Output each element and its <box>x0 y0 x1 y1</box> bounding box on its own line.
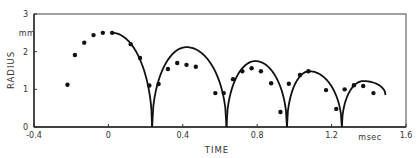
data-point <box>82 40 86 44</box>
x-axis-label: TIME <box>204 145 229 155</box>
data-point <box>278 110 282 114</box>
x-tick-label: 0.8 <box>251 131 264 140</box>
data-point <box>213 91 217 95</box>
radius-vs-time-chart: 0123 -0.400.40.81.21.6 RADIUS mm TIME ms… <box>0 0 420 158</box>
data-point <box>110 31 114 35</box>
data-point <box>138 56 142 60</box>
x-tick-label: -0.4 <box>26 131 42 140</box>
x-tick-label: 0.4 <box>176 131 189 140</box>
data-point <box>166 67 170 71</box>
data-point <box>222 91 226 95</box>
data-point <box>324 88 328 92</box>
data-point <box>194 65 198 69</box>
measured-points <box>65 31 375 115</box>
x-tick-label: 0 <box>106 131 111 140</box>
data-point <box>184 63 188 67</box>
data-point <box>259 69 263 73</box>
data-point <box>240 69 244 73</box>
data-point <box>156 82 160 86</box>
data-point <box>287 81 291 85</box>
data-point <box>147 83 151 87</box>
data-point <box>65 83 69 87</box>
data-point <box>352 83 356 87</box>
data-point <box>269 81 273 85</box>
x-axis-unit: msec <box>358 133 381 142</box>
y-tick-label: 3 <box>23 10 28 19</box>
y-tick-label: 1 <box>23 85 28 94</box>
data-point <box>101 31 105 35</box>
data-point <box>249 66 253 70</box>
data-point <box>129 42 133 46</box>
plot-frame <box>34 14 406 127</box>
y-axis-unit: mm <box>19 29 36 38</box>
data-point <box>73 53 77 57</box>
y-axis-label: RADIUS <box>6 51 16 89</box>
data-point <box>231 77 235 81</box>
theory-curve <box>112 33 385 127</box>
data-point <box>342 87 346 91</box>
data-point <box>306 69 310 73</box>
data-point <box>175 61 179 65</box>
x-tick-label: 1.6 <box>400 131 413 140</box>
data-point <box>334 107 338 111</box>
data-point <box>361 84 365 88</box>
x-tick-label: 1.2 <box>325 131 338 140</box>
data-point <box>371 91 375 95</box>
data-point <box>91 33 95 37</box>
data-point <box>298 73 302 77</box>
y-tick-label: 2 <box>23 48 28 57</box>
